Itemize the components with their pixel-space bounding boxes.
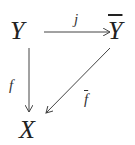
label-f: f xyxy=(9,78,13,93)
arrow-fbar xyxy=(46,48,110,113)
label-j: j xyxy=(74,12,78,27)
node-X: X xyxy=(19,117,35,143)
node-Y-bar: Y xyxy=(108,18,122,44)
node-Y: Y xyxy=(10,18,24,44)
label-f-bar: f xyxy=(84,92,88,107)
